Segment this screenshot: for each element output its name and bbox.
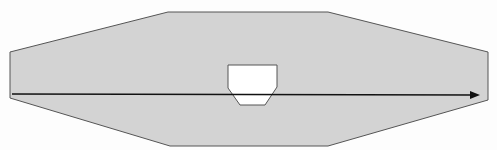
arrow-line [12,94,474,95]
diagram-svg [0,0,497,150]
diagram-canvas [0,0,497,150]
